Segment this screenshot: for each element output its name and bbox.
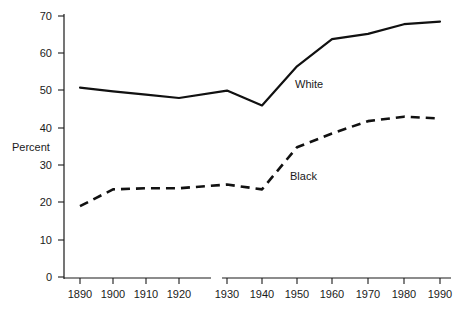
x-tick-label: 1910: [129, 288, 163, 300]
x-tick-label: 1900: [96, 288, 130, 300]
x-tick-label: 1920: [162, 288, 196, 300]
y-axis-title: Percent: [12, 141, 50, 153]
x-tick-label: 1940: [245, 288, 279, 300]
plot-area: [0, 0, 467, 312]
series-label-black: Black: [290, 170, 317, 182]
chart-container: Percent 706050403020100 1890190019101920…: [0, 0, 467, 312]
y-tick-label: 40: [30, 122, 52, 134]
y-tick-label: 60: [30, 47, 52, 59]
y-tick-label: 0: [30, 271, 52, 283]
y-tick-label: 20: [30, 196, 52, 208]
y-tick-label: 10: [30, 234, 52, 246]
x-tick-label: 1890: [63, 288, 97, 300]
x-tick-marks: [80, 278, 440, 284]
x-tick-label: 1990: [423, 288, 457, 300]
y-tick-label: 30: [30, 159, 52, 171]
x-tick-label: 1930: [210, 288, 244, 300]
series-line-black: [80, 117, 440, 206]
y-tick-marks: [58, 16, 64, 277]
x-tick-label: 1970: [351, 288, 385, 300]
x-tick-label: 1980: [387, 288, 421, 300]
y-tick-label: 50: [30, 84, 52, 96]
x-tick-label: 1960: [315, 288, 349, 300]
x-tick-label: 1950: [280, 288, 314, 300]
y-tick-label: 70: [30, 10, 52, 22]
series-line-white: [80, 22, 440, 106]
series-label-white: White: [295, 78, 323, 90]
